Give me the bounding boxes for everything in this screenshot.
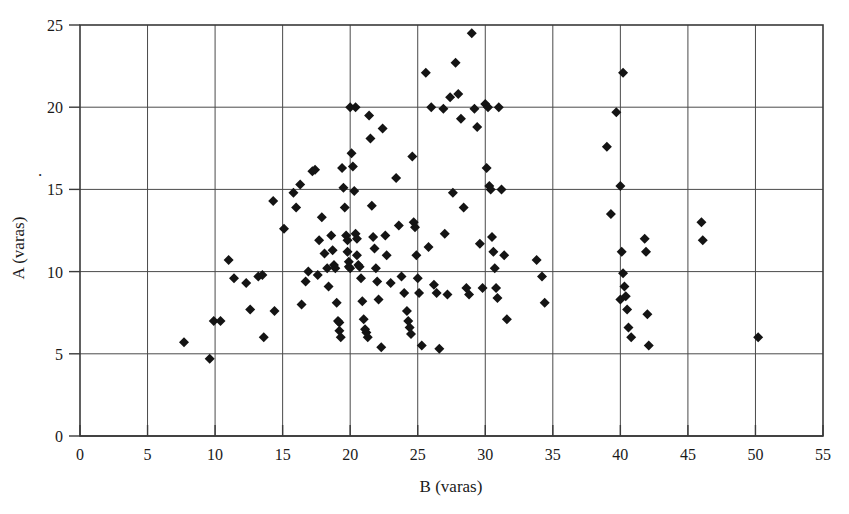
- data-point: [352, 250, 362, 260]
- data-point: [537, 272, 547, 282]
- x-axis-label: B (varas): [420, 477, 483, 496]
- x-tick-label: 15: [275, 446, 291, 463]
- data-point: [357, 296, 367, 306]
- data-point: [641, 247, 651, 257]
- data-point: [459, 202, 469, 212]
- data-point: [301, 276, 311, 286]
- chart-canvas: 0510152025303540455055 0510152025 B (var…: [0, 0, 849, 514]
- data-point: [215, 316, 225, 326]
- data-point: [411, 250, 421, 260]
- x-tick-label: 10: [207, 446, 223, 463]
- data-point: [488, 247, 498, 257]
- data-point: [626, 332, 636, 342]
- x-tick-label: 45: [680, 446, 696, 463]
- data-point: [432, 288, 442, 298]
- data-point: [487, 232, 497, 242]
- data-point: [326, 230, 336, 240]
- data-point: [438, 104, 448, 114]
- data-point: [456, 114, 466, 124]
- data-point: [369, 244, 379, 254]
- data-point: [324, 281, 334, 291]
- horizontal-gridlines: [80, 107, 823, 354]
- data-point: [429, 280, 439, 290]
- data-point: [297, 299, 307, 309]
- data-point: [606, 209, 616, 219]
- x-tick-label: 20: [342, 446, 358, 463]
- data-point: [491, 283, 501, 293]
- data-point: [268, 196, 278, 206]
- data-point: [397, 272, 407, 282]
- data-point: [365, 133, 375, 143]
- data-point: [317, 212, 327, 222]
- data-point: [619, 281, 629, 291]
- data-point: [413, 273, 423, 283]
- stray-dot-mark: .: [38, 161, 42, 180]
- y-tick-label: 15: [47, 181, 63, 198]
- data-point: [359, 314, 369, 324]
- data-point: [442, 290, 452, 300]
- data-point: [224, 255, 234, 265]
- y-tick-label: 5: [55, 346, 63, 363]
- data-point: [417, 341, 427, 351]
- data-point: [348, 161, 358, 171]
- data-point: [698, 235, 708, 245]
- x-tick-label: 50: [747, 446, 763, 463]
- data-point: [421, 68, 431, 78]
- x-tick-label: 40: [612, 446, 628, 463]
- data-point: [414, 288, 424, 298]
- data-point: [391, 173, 401, 183]
- data-point: [532, 255, 542, 265]
- data-point: [602, 142, 612, 152]
- data-point: [342, 247, 352, 257]
- data-point: [368, 232, 378, 242]
- data-point: [380, 230, 390, 240]
- data-point: [356, 273, 366, 283]
- data-point: [618, 68, 628, 78]
- data-point: [440, 229, 450, 239]
- data-point: [374, 295, 384, 305]
- data-point: [386, 278, 396, 288]
- data-point: [496, 184, 506, 194]
- data-point: [492, 293, 502, 303]
- x-tick-label: 5: [144, 446, 152, 463]
- data-point: [270, 306, 280, 316]
- y-tick-label: 20: [47, 99, 63, 116]
- data-point: [338, 183, 348, 193]
- x-tick-label: 25: [410, 446, 426, 463]
- data-point: [295, 179, 305, 189]
- data-point: [332, 298, 342, 308]
- data-point: [424, 242, 434, 252]
- data-point: [494, 102, 504, 112]
- y-axis-label: A (varas): [9, 217, 28, 280]
- data-point: [229, 273, 239, 283]
- data-point: [364, 110, 374, 120]
- y-axis-tick-labels: 0510152025: [47, 17, 63, 445]
- data-point: [351, 102, 361, 112]
- y-tick-label: 0: [55, 428, 63, 445]
- data-point: [349, 186, 359, 196]
- data-point: [618, 268, 628, 278]
- data-point: [426, 102, 436, 112]
- data-point: [617, 247, 627, 257]
- data-point: [623, 322, 633, 332]
- data-point: [372, 276, 382, 286]
- data-point: [482, 163, 492, 173]
- y-axis-ticks: [69, 25, 80, 436]
- data-point: [179, 337, 189, 347]
- x-axis-ticks: [80, 425, 823, 436]
- data-point: [469, 104, 479, 114]
- data-point: [642, 309, 652, 319]
- data-point: [753, 332, 763, 342]
- scatter-plot-figure: 0510152025303540455055 0510152025 B (var…: [0, 0, 849, 514]
- data-point: [407, 152, 417, 162]
- x-tick-label: 0: [76, 446, 84, 463]
- data-point: [611, 107, 621, 117]
- data-point: [502, 314, 512, 324]
- data-point: [394, 221, 404, 231]
- data-point: [279, 224, 289, 234]
- data-point: [467, 28, 477, 38]
- x-tick-label: 55: [815, 446, 831, 463]
- data-point: [314, 235, 324, 245]
- data-point: [478, 283, 488, 293]
- y-tick-label: 25: [47, 17, 63, 34]
